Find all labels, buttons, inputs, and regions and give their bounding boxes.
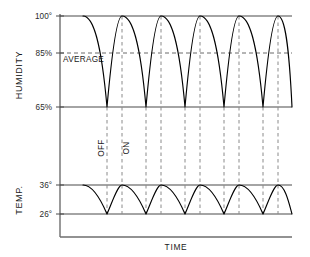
annotation-average: AVERAGE [63, 55, 104, 64]
axis-title-humidity: HUMIDITY [14, 51, 24, 99]
tick-label-humidity-85: 85% [36, 49, 52, 58]
axis-title-time: TIME [165, 242, 188, 252]
humidity-curve [83, 16, 292, 107]
annotation-on: ON [122, 142, 131, 155]
tick-label-humidity-65: 65% [36, 103, 52, 112]
tick-label-temp-36: 36° [40, 181, 52, 190]
switch-marker-lines [107, 16, 278, 214]
temperature-curve [83, 185, 292, 214]
humidity-temperature-cycle-chart: 100° 85% 65% HUMIDITY AVERAGE 36° 26° TE… [0, 0, 310, 257]
tick-label-temp-26: 26° [40, 210, 52, 219]
chart-svg: 100° 85% 65% HUMIDITY AVERAGE 36° 26° TE… [0, 0, 310, 257]
axis-title-temp: TEMP. [14, 185, 24, 214]
annotation-off: OFF [97, 139, 106, 156]
tick-label-humidity-100: 100° [35, 12, 52, 21]
